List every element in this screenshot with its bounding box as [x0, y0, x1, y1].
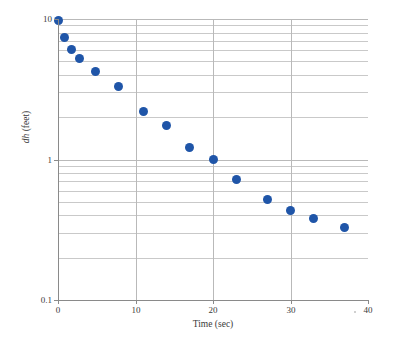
- x-axis-tick: [58, 300, 59, 304]
- data-point-marker: [232, 175, 241, 184]
- x-axis-title: Time (sec): [58, 319, 368, 329]
- gridline-vertical: [136, 19, 137, 300]
- data-point-marker: [263, 195, 272, 204]
- scatter-chart: Time (sec) dh (feet) 0102030400.1110: [0, 0, 399, 341]
- plot-area: [58, 19, 368, 300]
- data-point-marker: [209, 155, 218, 164]
- data-point-marker: [185, 143, 194, 152]
- x-axis-tick: [213, 300, 214, 304]
- data-point-marker: [60, 33, 69, 42]
- data-point-marker: [309, 214, 318, 223]
- x-axis-tick-label: 40: [348, 305, 388, 315]
- data-point-marker: [340, 223, 349, 232]
- x-axis-tick-label: 10: [116, 305, 156, 315]
- x-axis-tick-label: 0: [38, 305, 78, 315]
- x-axis-tick: [136, 300, 137, 304]
- gridline-vertical: [291, 19, 292, 300]
- data-point-marker: [162, 121, 171, 130]
- data-point-marker: [75, 54, 84, 63]
- y-axis-title-rest: (feet): [21, 111, 31, 134]
- x-axis-tick: [368, 300, 369, 304]
- data-point-marker: [139, 107, 148, 116]
- data-point-marker: [114, 82, 123, 91]
- x-axis-tick-label: 30: [271, 305, 311, 315]
- y-axis-title-italic: dh: [21, 134, 31, 144]
- y-axis-line: [58, 19, 59, 300]
- y-axis-tick-label: 1: [0, 156, 58, 165]
- y-axis-title: dh (feet): [21, 87, 31, 167]
- x-axis-tick: [291, 300, 292, 304]
- data-point-marker: [67, 45, 76, 54]
- y-axis-tick-label: 10: [0, 15, 58, 24]
- x-axis-tick-label: 20: [193, 305, 233, 315]
- y-axis-tick-label: 0.1: [0, 296, 58, 305]
